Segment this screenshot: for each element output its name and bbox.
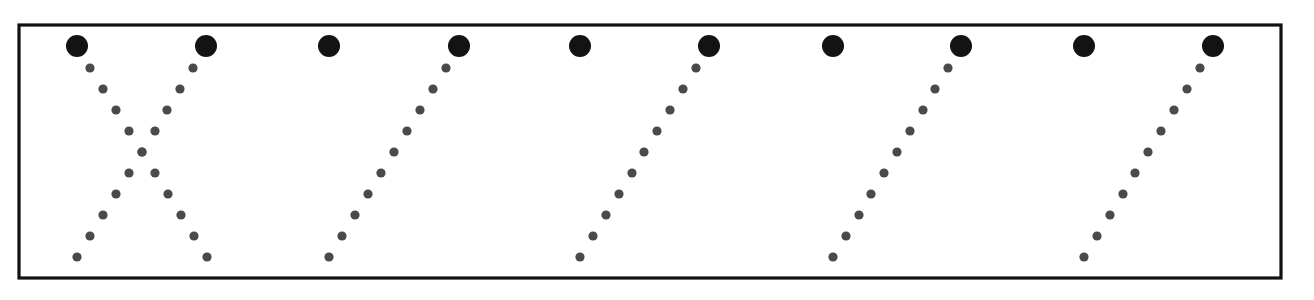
large-node-6	[698, 35, 720, 57]
large-node-5	[569, 35, 591, 57]
small-node	[905, 126, 914, 135]
small-node	[943, 63, 952, 72]
small-node	[150, 168, 159, 177]
small-node	[918, 105, 927, 114]
small-node	[111, 189, 120, 198]
small-node	[188, 63, 197, 72]
small-node	[892, 147, 901, 156]
small-node	[879, 168, 888, 177]
small-node	[150, 126, 159, 135]
small-node	[441, 63, 450, 72]
large-node-2	[195, 35, 217, 57]
small-node	[202, 252, 211, 261]
small-node	[111, 105, 120, 114]
small-node	[1195, 63, 1204, 72]
large-node-7	[822, 35, 844, 57]
small-node	[85, 63, 94, 72]
small-node	[162, 105, 171, 114]
small-node	[601, 210, 610, 219]
large-node-1	[66, 35, 88, 57]
small-node	[588, 231, 597, 240]
scatter-figure	[0, 0, 1314, 300]
small-node	[854, 210, 863, 219]
small-node	[1143, 147, 1152, 156]
small-node	[1092, 231, 1101, 240]
small-node	[1182, 84, 1191, 93]
small-node	[337, 231, 346, 240]
small-node	[415, 105, 424, 114]
small-node	[841, 231, 850, 240]
small-node	[98, 210, 107, 219]
large-node-4	[448, 35, 470, 57]
small-node	[691, 63, 700, 72]
small-node	[614, 189, 623, 198]
figure-root	[0, 0, 1314, 300]
small-node	[1079, 252, 1088, 261]
large-node-10	[1202, 35, 1224, 57]
small-node	[124, 126, 133, 135]
small-node	[665, 105, 674, 114]
small-node	[389, 147, 398, 156]
small-node	[652, 126, 661, 135]
small-node	[176, 210, 185, 219]
small-node	[85, 231, 94, 240]
small-node	[402, 126, 411, 135]
small-node	[98, 84, 107, 93]
small-node	[124, 168, 133, 177]
small-node	[1130, 168, 1139, 177]
small-node	[175, 84, 184, 93]
small-node	[866, 189, 875, 198]
small-node	[575, 252, 584, 261]
small-node	[376, 168, 385, 177]
large-node-8	[950, 35, 972, 57]
small-node	[324, 252, 333, 261]
figure-border	[19, 25, 1281, 278]
small-node	[639, 147, 648, 156]
small-node	[189, 231, 198, 240]
small-node	[678, 84, 687, 93]
small-node	[363, 189, 372, 198]
small-node	[627, 168, 636, 177]
small-node	[350, 210, 359, 219]
small-node	[163, 189, 172, 198]
small-node	[1169, 105, 1178, 114]
small-node	[428, 84, 437, 93]
large-node-9	[1073, 35, 1095, 57]
small-node	[1156, 126, 1165, 135]
small-node	[930, 84, 939, 93]
small-node	[1118, 189, 1127, 198]
small-node	[1105, 210, 1114, 219]
large-node-3	[318, 35, 340, 57]
small-node	[828, 252, 837, 261]
small-node	[137, 147, 146, 156]
small-node	[72, 252, 81, 261]
